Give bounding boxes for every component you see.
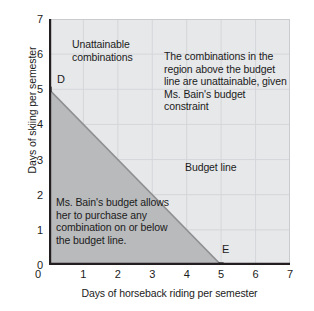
y-tick-1: 1 (27, 224, 43, 236)
y-tick-5: 5 (27, 83, 43, 95)
x-tick-1: 1 (74, 268, 92, 280)
annotation-budget-line: Budget line (185, 161, 245, 174)
x-tick-2: 2 (109, 268, 127, 280)
y-tick-7: 7 (27, 13, 43, 25)
x-tick-0: 0 (29, 268, 47, 280)
annotation-attainable: Ms. Bain's budget allows her to purchase… (56, 196, 178, 246)
x-tick-3: 3 (143, 268, 161, 280)
y-tick-6: 6 (27, 48, 43, 60)
x-axis-title: Days of horseback riding per semester (49, 287, 290, 299)
y-tick-3: 3 (27, 154, 43, 166)
point-label-d: D (57, 73, 65, 85)
budget-constraint-chart: Days of skiing per semester 0 1 2 3 4 5 … (0, 0, 314, 311)
point-label-e: E (222, 243, 229, 255)
x-tick-5: 5 (212, 268, 230, 280)
x-axis-tick-labels: 0 1 2 3 4 5 6 7 (0, 268, 314, 284)
annotation-explanation: The combinations in the region above the… (164, 50, 290, 113)
x-tick-6: 6 (247, 268, 265, 280)
y-axis-tick-labels: 0 1 2 3 4 5 6 7 (27, 0, 43, 311)
x-tick-7: 7 (281, 268, 299, 280)
y-tick-2: 2 (27, 189, 43, 201)
annotation-unattainable: Unattainable combinations (72, 38, 168, 63)
x-tick-4: 4 (178, 268, 196, 280)
y-tick-4: 4 (27, 118, 43, 130)
